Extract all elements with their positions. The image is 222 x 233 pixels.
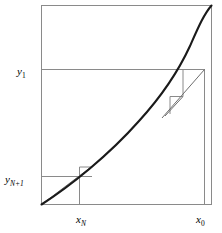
axis-label-yn1: yN+1	[5, 170, 24, 186]
axis-label-x0: x0	[196, 210, 205, 226]
cobweb-figure: y1 yN+1 xN x0	[0, 0, 222, 233]
axis-label-y1-sub: 1	[22, 71, 26, 80]
function-curve	[42, 6, 212, 205]
axis-label-xn-sub: N	[81, 219, 86, 228]
axis-label-yn1-sub: N+1	[10, 179, 24, 188]
axis-label-xn: xN	[76, 210, 86, 226]
axis-label-x0-sub: 0	[201, 219, 205, 228]
plot-frame	[42, 6, 212, 205]
cobweb-chord-upper-2	[165, 97, 183, 117]
axis-label-y1: y1	[17, 62, 26, 78]
cobweb-diagram-canvas	[0, 0, 222, 233]
